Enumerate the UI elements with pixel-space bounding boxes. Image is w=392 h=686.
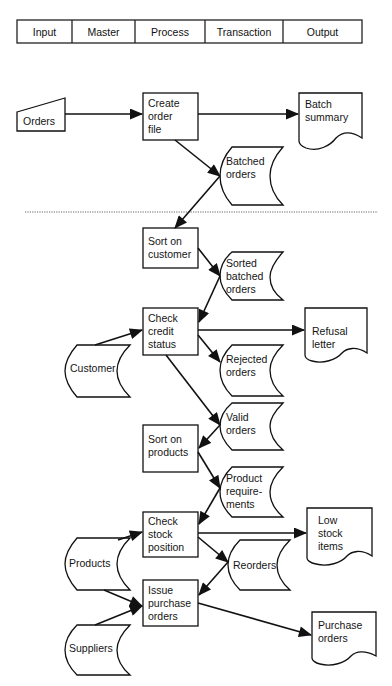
sort-on-products-label: Sort on products [148, 433, 188, 459]
header-col-process: Process [135, 20, 205, 43]
customer-label: Customer [70, 362, 116, 375]
refusal-letter-label: Refusal letter [312, 325, 348, 351]
check-stock-position-label: Check stock position [148, 515, 184, 554]
arrow-customer-to-credit [95, 330, 142, 345]
rejected-orders-label: Rejected orders [226, 353, 267, 379]
purchase-orders-label: Purchase orders [318, 619, 362, 645]
header-col-transaction: Transaction [205, 20, 283, 43]
check-credit-status-label: Check credit status [148, 312, 178, 351]
suppliers-label: Suppliers [69, 642, 113, 655]
arrow-prodreq-to-checkstock [199, 488, 220, 524]
arrow-suppliers-to-issue [95, 606, 142, 625]
issue-purchase-orders-label: Issue purchase orders [148, 584, 191, 623]
arrow-checkstock-to-reorders [198, 537, 228, 562]
arrow-credit-to-rejected [198, 335, 220, 362]
arrow-sortprod-to-prodreq [198, 452, 220, 488]
low-stock-items-label: Low stock items [318, 514, 343, 553]
products-label: Products [69, 557, 110, 570]
header-col-input: Input [17, 20, 72, 43]
arrow-valid-to-sortprod [199, 425, 220, 448]
sort-on-customer-label: Sort on customer [148, 235, 191, 261]
arrow-reorders-to-issue [199, 562, 228, 595]
header-col-output: Output [283, 20, 362, 43]
reorders-label: Reorders [233, 559, 276, 572]
product-requirements-label: Product require- ments [226, 472, 262, 511]
arrow-sortcust-to-sorted [198, 248, 220, 276]
header-col-master: Master [72, 20, 135, 43]
arrow-products-to-issue [104, 590, 142, 606]
arrow-sorted-to-credit [199, 276, 220, 322]
arrow-create-to-batched [175, 140, 220, 176]
arrow-batched-to-sortcust [175, 176, 220, 228]
valid-orders-label: Valid orders [226, 411, 256, 437]
create-order-file-label: Create order file [148, 97, 180, 136]
orders-label: Orders [23, 115, 55, 128]
batch-summary-label: Batch summary [305, 98, 348, 124]
batched-orders-label: Batched orders [226, 155, 265, 181]
arrow-credit-to-valid [166, 355, 220, 425]
arrow-issue-to-purchase [198, 603, 311, 635]
sorted-batched-orders-label: Sorted batched orders [226, 257, 263, 296]
